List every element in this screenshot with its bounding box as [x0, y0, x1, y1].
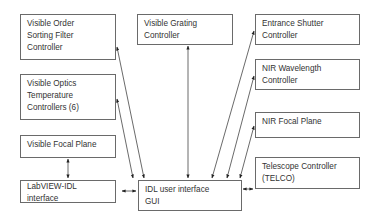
node-label: NIR Focal Plane	[262, 116, 359, 128]
node-label: Controller	[27, 42, 115, 54]
visible-optics-temperature-controllers-node: Visible Optics Temperature Controllers (…	[20, 74, 116, 120]
node-label: GUI	[145, 196, 241, 208]
nir-wavelength-controller-node: NIR Wavelength Controller	[255, 59, 360, 90]
idl-user-interface-gui-node: IDL user interface GUI	[138, 180, 242, 211]
node-label: Controller	[262, 30, 359, 42]
labview-idl-interface-node: LabVIEW-IDL interface	[20, 180, 116, 203]
node-label: Telescope Controller	[262, 161, 359, 173]
node-label: NIR Wavelength	[262, 63, 359, 75]
visible-focal-plane-node: Visible Focal Plane	[20, 135, 116, 158]
node-label: Visible Optics	[27, 78, 115, 90]
node-label: Visible Focal Plane	[27, 139, 115, 151]
node-label: LabVIEW-IDL	[27, 181, 115, 193]
node-label: Controller	[144, 30, 232, 42]
telescope-controller-node: Telescope Controller (TELCO)	[255, 157, 360, 189]
node-label: IDL user interface	[145, 184, 241, 196]
node-label: Controllers (6)	[27, 102, 115, 114]
node-label: Temperature	[27, 90, 115, 102]
node-label: Visible Order	[27, 18, 115, 30]
entrance-shutter-controller-node: Entrance Shutter Controller	[255, 14, 360, 45]
node-label: Entrance Shutter	[262, 18, 359, 30]
visible-order-sorting-filter-controller-node: Visible Order Sorting Filter Controller	[20, 14, 116, 60]
node-label: (TELCO)	[262, 173, 359, 185]
node-label: Visible Grating	[144, 18, 232, 30]
node-label: Sorting Filter	[27, 30, 115, 42]
node-label: interface	[27, 193, 115, 205]
node-label: Controller	[262, 75, 359, 87]
visible-grating-controller-node: Visible Grating Controller	[137, 14, 233, 45]
nir-focal-plane-node: NIR Focal Plane	[255, 112, 360, 138]
